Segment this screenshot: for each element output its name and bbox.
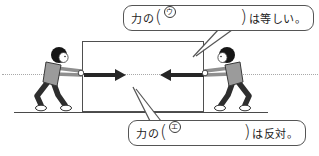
top-callout-prefix: 力の [131, 10, 154, 26]
top-callout: 力の ( ウ ) は等しい。 [123, 5, 314, 31]
arrow-left-icon [160, 69, 171, 81]
physics-forces-diagram: 力の ( ウ ) は等しい。 力の ( エ ) は反対。 [0, 0, 319, 156]
bottom-open-paren: ( [159, 123, 169, 141]
top-callout-suffix: は等しい。 [249, 10, 307, 26]
circled-letter-u: ウ [164, 6, 176, 18]
bottom-callout-suffix: は反対。 [252, 125, 298, 141]
top-open-paren: ( [154, 8, 164, 26]
bottom-close-paren: ) [242, 123, 252, 141]
arrow-right-icon [115, 69, 126, 81]
force-arrow-left [171, 73, 204, 77]
boy-pushing-right [34, 46, 84, 114]
bottom-callout: 力の ( エ ) は反対。 [128, 120, 306, 146]
force-arrow-right [84, 73, 115, 77]
circled-letter-e: エ [169, 121, 181, 133]
boy-pushing-left [202, 46, 252, 114]
top-close-paren: ) [239, 8, 249, 26]
bottom-callout-prefix: 力の [136, 125, 159, 141]
